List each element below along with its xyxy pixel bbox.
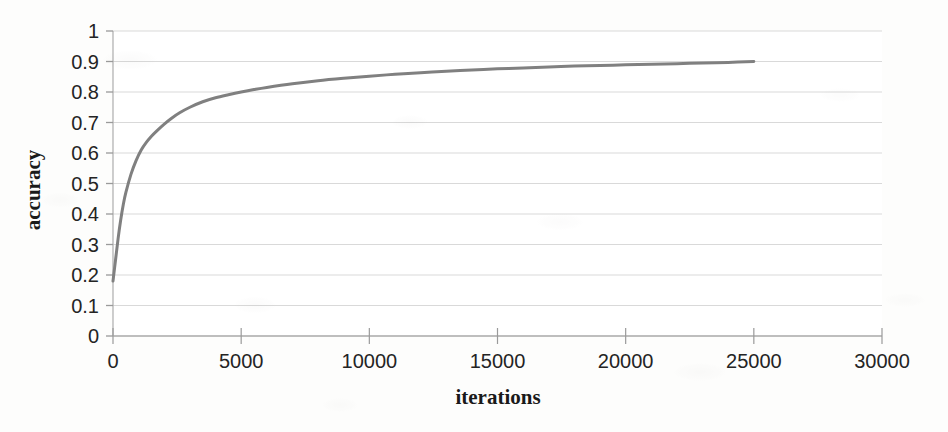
y-tick-label: 0 [88, 325, 99, 347]
y-tick-label: 0.2 [71, 264, 99, 286]
x-tick-label: 15000 [470, 350, 526, 372]
x-axis-label: iterations [455, 385, 540, 409]
y-tick-label: 0.8 [71, 81, 99, 103]
y-tick-label: 0.1 [71, 295, 99, 317]
y-tick-label: 0.9 [71, 51, 99, 73]
x-tick-label: 5000 [219, 350, 264, 372]
x-axis-tick-labels: 050001000015000200002500030000 [107, 350, 909, 372]
x-tick-label: 10000 [342, 350, 398, 372]
y-tick-label: 0.6 [71, 142, 99, 164]
y-tick-label: 1 [88, 20, 99, 42]
x-tick-label: 0 [107, 350, 118, 372]
chart-page: 00.10.20.30.40.50.60.70.80.91 0500010000… [0, 0, 948, 432]
y-tick-label: 0.7 [71, 112, 99, 134]
accuracy-vs-iterations-chart: 00.10.20.30.40.50.60.70.80.91 0500010000… [0, 0, 948, 432]
y-axis-label: accuracy [21, 149, 45, 230]
x-tick-label: 20000 [598, 350, 654, 372]
y-axis-tick-labels: 00.10.20.30.40.50.60.70.80.91 [71, 20, 99, 347]
y-tick-label: 0.4 [71, 203, 99, 225]
y-tick-label: 0.3 [71, 234, 99, 256]
x-tick-label: 30000 [854, 350, 910, 372]
y-tick-label: 0.5 [71, 173, 99, 195]
x-tick-label: 25000 [726, 350, 782, 372]
y-axis-ticks [106, 31, 113, 336]
